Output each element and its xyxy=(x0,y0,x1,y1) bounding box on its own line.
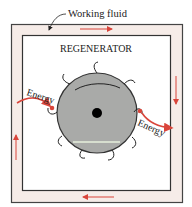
wheel-hub-icon xyxy=(92,108,102,118)
regenerator-title: REGENERATOR xyxy=(60,43,132,54)
regenerator-diagram: Working fluid REGENERATOR Energy Energy xyxy=(0,0,192,207)
energy-out-dot-icon xyxy=(138,109,143,114)
working-fluid-label: Working fluid xyxy=(68,8,128,19)
energy-in-dot-icon xyxy=(50,106,55,111)
